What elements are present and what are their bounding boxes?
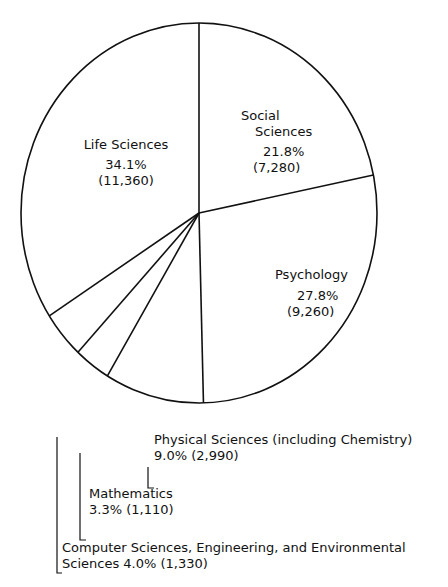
social-label: Social Sciences 21.8% (7,280) (241, 108, 312, 176)
psychology-label: Psychology 27.8% (9,260) (275, 267, 348, 320)
physical-label: Physical Sciences (including Chemistry) … (154, 432, 412, 464)
life-label: Life Sciences 34.1% (11,360) (66, 137, 186, 189)
leader-mathematics (80, 453, 86, 540)
slice-divider (78, 213, 199, 352)
slice-divider (199, 213, 203, 403)
slice-divider (49, 213, 199, 316)
computer-label: Computer Sciences, Engineering, and Envi… (62, 540, 406, 572)
pie-graphic (0, 0, 448, 587)
pie-chart: Social Sciences 21.8% (7,280) Life Scien… (0, 0, 448, 587)
mathematics-label: Mathematics 3.3% (1,110) (89, 486, 174, 518)
slice-divider (107, 213, 199, 376)
leader-physical (148, 467, 154, 488)
slice-divider (199, 175, 373, 213)
